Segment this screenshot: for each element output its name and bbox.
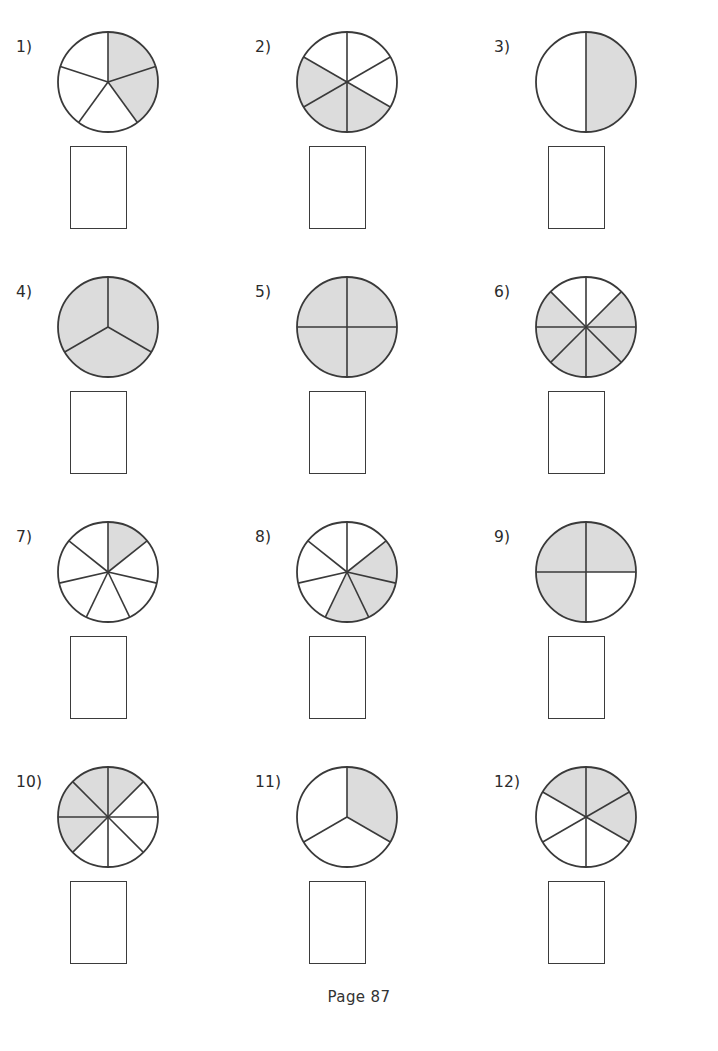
pie-svg bbox=[56, 765, 160, 869]
problem-number-label: 2) bbox=[255, 40, 271, 56]
problem-number-label: 4) bbox=[16, 285, 32, 301]
shaded-sector bbox=[347, 82, 390, 132]
problem-7: 7) bbox=[0, 512, 239, 757]
sector-divider bbox=[347, 57, 390, 82]
problem-number-label: 10) bbox=[16, 775, 42, 791]
problem-number-label: 11) bbox=[255, 775, 281, 791]
shaded-sector bbox=[543, 767, 586, 817]
sector-divider bbox=[108, 817, 143, 852]
answer-box-5[interactable] bbox=[309, 391, 366, 474]
problem-number-label: 3) bbox=[494, 40, 510, 56]
pie-svg bbox=[295, 30, 399, 134]
problem-2: 2) bbox=[239, 22, 478, 267]
problem-12: 12) bbox=[478, 757, 717, 1002]
sector-divider bbox=[86, 572, 108, 617]
fraction-circle-9 bbox=[534, 520, 638, 624]
answer-box-12[interactable] bbox=[548, 881, 605, 964]
problem-9: 9) bbox=[478, 512, 717, 757]
problem-8: 8) bbox=[239, 512, 478, 757]
fraction-circle-3 bbox=[534, 30, 638, 134]
answer-box-8[interactable] bbox=[309, 636, 366, 719]
shaded-sector bbox=[58, 817, 108, 852]
sector-divider bbox=[59, 572, 108, 583]
shaded-sector bbox=[586, 32, 636, 132]
fraction-circle-10 bbox=[56, 765, 160, 869]
answer-box-4[interactable] bbox=[70, 391, 127, 474]
sector-divider bbox=[79, 82, 108, 122]
problem-number-label: 8) bbox=[255, 530, 271, 546]
answer-box-1[interactable] bbox=[70, 146, 127, 229]
problem-5: 5) bbox=[239, 267, 478, 512]
fraction-circle-1 bbox=[56, 30, 160, 134]
answer-box-3[interactable] bbox=[548, 146, 605, 229]
problem-11: 11) bbox=[239, 757, 478, 1002]
sector-divider bbox=[308, 541, 347, 572]
fraction-circle-5 bbox=[295, 275, 399, 379]
fraction-circle-12 bbox=[534, 765, 638, 869]
pie-svg bbox=[56, 275, 160, 379]
answer-box-7[interactable] bbox=[70, 636, 127, 719]
sector-divider bbox=[298, 572, 347, 583]
pie-svg bbox=[56, 30, 160, 134]
worksheet-page: 1)2)3)4)5)6)7)8)9)10)11)12) Page 87 bbox=[0, 0, 718, 1051]
fraction-circle-6 bbox=[534, 275, 638, 379]
sector-divider bbox=[69, 541, 108, 572]
sector-divider bbox=[543, 817, 586, 842]
answer-box-6[interactable] bbox=[548, 391, 605, 474]
answer-box-11[interactable] bbox=[309, 881, 366, 964]
pie-svg bbox=[534, 30, 638, 134]
sector-divider bbox=[108, 572, 157, 583]
problem-4: 4) bbox=[0, 267, 239, 512]
pie-svg bbox=[295, 275, 399, 379]
problem-3: 3) bbox=[478, 22, 717, 267]
problem-number-label: 6) bbox=[494, 285, 510, 301]
pie-svg bbox=[295, 520, 399, 624]
answer-box-9[interactable] bbox=[548, 636, 605, 719]
problem-number-label: 7) bbox=[16, 530, 32, 546]
shaded-sector bbox=[536, 292, 586, 327]
shaded-sector bbox=[108, 767, 143, 817]
problem-number-label: 5) bbox=[255, 285, 271, 301]
problem-10: 10) bbox=[0, 757, 239, 1002]
answer-box-10[interactable] bbox=[70, 881, 127, 964]
fraction-circle-7 bbox=[56, 520, 160, 624]
problem-grid: 1)2)3)4)5)6)7)8)9)10)11)12) bbox=[0, 22, 718, 1002]
pie-svg bbox=[534, 520, 638, 624]
problem-number-label: 12) bbox=[494, 775, 520, 791]
sector-divider bbox=[108, 572, 130, 617]
fraction-circle-8 bbox=[295, 520, 399, 624]
pie-svg bbox=[534, 275, 638, 379]
sector-divider bbox=[60, 67, 108, 82]
page-footer: Page 87 bbox=[0, 988, 718, 1006]
problem-number-label: 9) bbox=[494, 530, 510, 546]
problem-6: 6) bbox=[478, 267, 717, 512]
pie-svg bbox=[534, 765, 638, 869]
answer-box-2[interactable] bbox=[309, 146, 366, 229]
shaded-sector bbox=[586, 292, 636, 327]
pie-svg bbox=[56, 520, 160, 624]
pie-svg bbox=[295, 765, 399, 869]
sector-divider bbox=[304, 817, 347, 842]
problem-number-label: 1) bbox=[16, 40, 32, 56]
fraction-circle-4 bbox=[56, 275, 160, 379]
shaded-sector bbox=[108, 522, 147, 572]
fraction-circle-11 bbox=[295, 765, 399, 869]
fraction-circle-2 bbox=[295, 30, 399, 134]
problem-1: 1) bbox=[0, 22, 239, 267]
